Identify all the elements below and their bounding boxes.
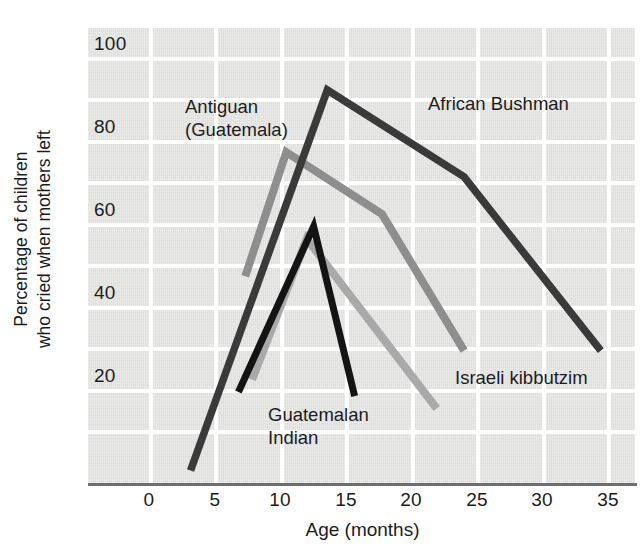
antiguan-label: Antiguan (Guatemala) [185, 95, 288, 141]
data-lines-layer [0, 0, 640, 557]
series-line-african-bushman [191, 90, 601, 471]
chart-figure: 100 80 60 40 20 0 5 10 15 20 25 30 35 Ag… [0, 0, 640, 557]
african-bushman-label: African Bushman [428, 92, 569, 115]
israeli-kibbutzim-label: Israeli kibbutzim [455, 366, 588, 389]
guatemalan-indian-label: Guatemalan Indian [268, 403, 369, 449]
